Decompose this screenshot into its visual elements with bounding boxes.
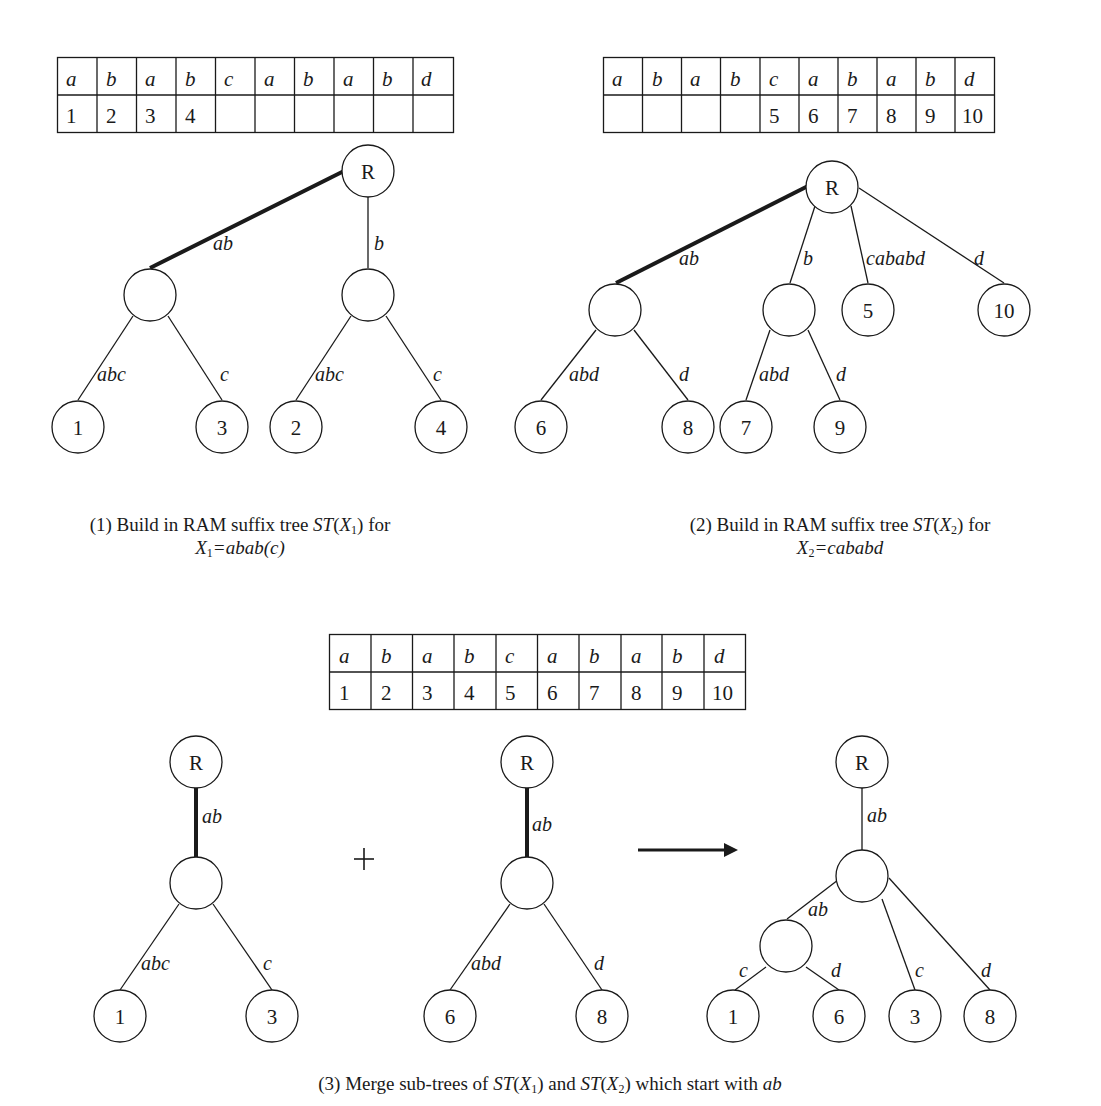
svg-text:ab: ab xyxy=(202,805,222,827)
svg-text:c: c xyxy=(224,67,234,91)
svg-text:d: d xyxy=(714,644,725,668)
svg-text:b: b xyxy=(652,67,663,91)
svg-text:10: 10 xyxy=(962,104,983,128)
svg-text:b: b xyxy=(847,67,858,91)
svg-text:7: 7 xyxy=(847,104,858,128)
panel2-caption-line2: X2=cababd xyxy=(640,536,1040,559)
svg-text:b: b xyxy=(382,67,393,91)
svg-text:ab: ab xyxy=(808,898,828,920)
internal-node-ab xyxy=(589,284,641,336)
internal-node-b xyxy=(342,269,394,321)
svg-text:b: b xyxy=(464,644,475,668)
internal-node-abab xyxy=(760,920,812,972)
svg-text:c: c xyxy=(220,363,229,385)
svg-text:6: 6 xyxy=(834,1005,845,1029)
svg-text:a: a xyxy=(422,644,433,668)
panel3-table-positions: 1 2 3 4 5 6 7 8 9 10 xyxy=(339,681,733,705)
svg-text:3: 3 xyxy=(910,1005,921,1029)
svg-text:4: 4 xyxy=(185,104,196,128)
svg-text:1: 1 xyxy=(115,1005,126,1029)
svg-text:abd: abd xyxy=(759,363,790,385)
svg-text:5: 5 xyxy=(505,681,516,705)
svg-text:5: 5 xyxy=(863,299,874,323)
svg-text:b: b xyxy=(672,644,683,668)
svg-text:d: d xyxy=(981,959,992,981)
panel1-table xyxy=(58,58,454,133)
svg-text:d: d xyxy=(594,952,605,974)
svg-text:b: b xyxy=(730,67,741,91)
svg-text:6: 6 xyxy=(808,104,819,128)
svg-text:6: 6 xyxy=(536,416,547,440)
svg-text:c: c xyxy=(433,363,442,385)
internal-node-ab xyxy=(170,857,222,909)
svg-text:ab: ab xyxy=(532,813,552,835)
svg-text:abd: abd xyxy=(471,952,502,974)
svg-text:6: 6 xyxy=(445,1005,456,1029)
svg-text:b: b xyxy=(374,232,384,254)
svg-text:ab: ab xyxy=(867,804,887,826)
svg-text:2: 2 xyxy=(291,416,302,440)
svg-text:8: 8 xyxy=(886,104,897,128)
internal-node-ab xyxy=(501,857,553,909)
svg-text:b: b xyxy=(303,67,314,91)
svg-text:abc: abc xyxy=(97,363,126,385)
svg-text:4: 4 xyxy=(436,416,447,440)
svg-text:b: b xyxy=(803,247,813,269)
svg-text:abc: abc xyxy=(315,363,344,385)
svg-text:b: b xyxy=(185,67,196,91)
svg-text:c: c xyxy=(505,644,515,668)
svg-text:a: a xyxy=(612,67,623,91)
svg-text:a: a xyxy=(808,67,819,91)
svg-text:ab: ab xyxy=(679,247,699,269)
svg-text:1: 1 xyxy=(728,1005,739,1029)
panel1-caption-line1: (1) Build in RAM suffix tree ST(X1) for xyxy=(40,513,440,536)
panel2-table-chars: a b a b c a b a b d xyxy=(612,67,975,91)
svg-text:a: a xyxy=(339,644,350,668)
svg-text:d: d xyxy=(836,363,847,385)
svg-text:abc: abc xyxy=(141,952,170,974)
svg-text:9: 9 xyxy=(835,416,846,440)
svg-text:c: c xyxy=(915,959,924,981)
svg-text:8: 8 xyxy=(631,681,642,705)
svg-text:2: 2 xyxy=(106,104,117,128)
svg-text:6: 6 xyxy=(547,681,558,705)
svg-text:c: c xyxy=(739,959,748,981)
panel2-caption-line1: (2) Build in RAM suffix tree ST(X2) for xyxy=(640,513,1040,536)
svg-text:d: d xyxy=(974,247,985,269)
svg-text:d: d xyxy=(831,959,842,981)
svg-text:10: 10 xyxy=(994,299,1015,323)
svg-text:3: 3 xyxy=(217,416,228,440)
svg-text:a: a xyxy=(547,644,558,668)
svg-text:1: 1 xyxy=(339,681,350,705)
svg-text:R: R xyxy=(855,751,869,775)
svg-text:d: d xyxy=(679,363,690,385)
internal-node-ab xyxy=(124,269,176,321)
svg-text:R: R xyxy=(520,751,534,775)
svg-text:b: b xyxy=(106,67,117,91)
svg-text:a: a xyxy=(145,67,156,91)
panel3-table-chars: a b a b c a b a b d xyxy=(339,644,725,668)
svg-text:7: 7 xyxy=(741,416,752,440)
internal-node-b xyxy=(763,284,815,336)
svg-text:a: a xyxy=(690,67,701,91)
arrow-right-icon xyxy=(638,843,738,857)
svg-text:1: 1 xyxy=(66,104,77,128)
svg-text:a: a xyxy=(886,67,897,91)
svg-text:3: 3 xyxy=(145,104,156,128)
svg-text:a: a xyxy=(264,67,275,91)
panel3-merged-nodes xyxy=(707,736,1016,1042)
svg-text:b: b xyxy=(381,644,392,668)
svg-text:a: a xyxy=(631,644,642,668)
svg-text:c: c xyxy=(769,67,779,91)
svg-text:c: c xyxy=(263,952,272,974)
svg-text:a: a xyxy=(66,67,77,91)
internal-node-ab xyxy=(836,850,888,902)
panel3-tree-x1-nodes xyxy=(94,736,298,1042)
svg-text:cababd: cababd xyxy=(866,247,926,269)
svg-text:8: 8 xyxy=(985,1005,996,1029)
panel1-nodes xyxy=(52,145,467,453)
svg-text:a: a xyxy=(343,67,354,91)
svg-text:ab: ab xyxy=(213,232,233,254)
svg-text:R: R xyxy=(361,160,375,184)
panel2-caption: (2) Build in RAM suffix tree ST(X2) for … xyxy=(640,513,1040,559)
